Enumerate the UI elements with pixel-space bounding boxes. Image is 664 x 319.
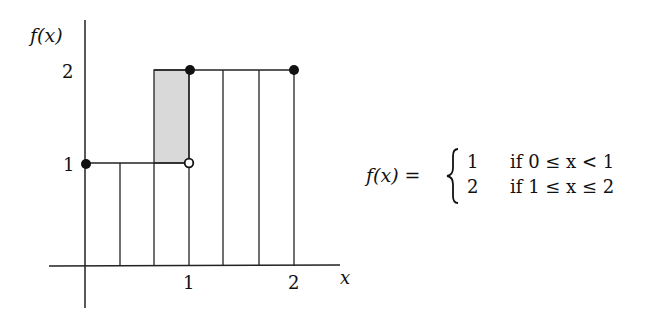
- y-axis-label: f(x): [28, 24, 63, 46]
- x-tick-2: 2: [288, 272, 299, 293]
- y-tick-1: 1: [63, 154, 74, 175]
- step-function-diagram: f(x) 2 1 1 2 x f(x) = 1 if 0 ≤ x < 1 2 i…: [0, 0, 664, 319]
- open-point-1-1: [185, 159, 194, 168]
- closed-point-1-2: [185, 65, 195, 75]
- case2-condition: if 1 ≤ x ≤ 2: [510, 176, 614, 197]
- shaded-rectangle: [154, 70, 189, 163]
- case1-value: 1: [467, 151, 478, 172]
- closed-point-0-1: [81, 159, 91, 169]
- closed-point-2-2: [289, 65, 299, 75]
- x-tick-1: 1: [183, 272, 194, 293]
- partition-lines: [120, 70, 294, 266]
- case2-value: 2: [467, 176, 478, 197]
- x-axis: [49, 265, 340, 266]
- case1-condition: if 0 ≤ x < 1: [510, 151, 614, 172]
- x-axis-label: x: [340, 267, 350, 288]
- definition-lhs: f(x) =: [364, 164, 421, 186]
- y-tick-2: 2: [62, 61, 73, 82]
- left-brace: [447, 149, 458, 203]
